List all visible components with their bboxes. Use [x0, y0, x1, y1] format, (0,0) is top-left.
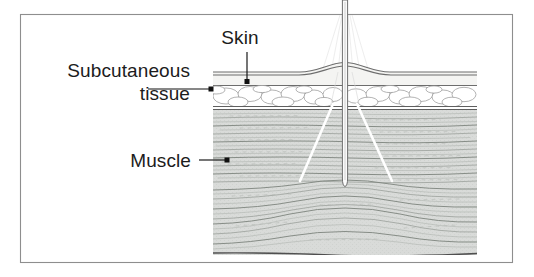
label-subcutaneous-line2: tissue: [140, 83, 190, 104]
leader-dot-skin: [245, 79, 250, 84]
leader-dot-subcutaneous: [209, 87, 214, 92]
label-skin: Skin: [221, 27, 258, 48]
label-subcutaneous-group: Subcutaneous tissue: [67, 60, 213, 104]
leader-dot-muscle: [225, 158, 230, 163]
anatomical-diagram-figure: Skin Subcutaneous tissue Muscle: [0, 0, 534, 277]
injection-needle: [342, 0, 347, 187]
label-subcutaneous-line1: Subcutaneous: [67, 60, 190, 81]
label-muscle: Muscle: [130, 150, 191, 171]
diagram-canvas: Skin Subcutaneous tissue Muscle: [0, 0, 534, 277]
